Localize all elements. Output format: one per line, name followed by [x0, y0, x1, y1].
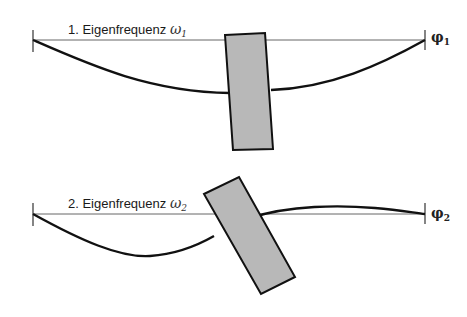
mode-2-label: 2. Eigenfrequenz ω2	[68, 195, 187, 213]
mode-2-title: 2. Eigenfrequenz	[68, 196, 166, 211]
phi-2-label: φ2	[431, 205, 450, 223]
mode-2-deflection-curve-right	[250, 206, 425, 218]
mode-1-label: 1. Eigenfrequenz ω1	[68, 21, 187, 39]
mode-1-group	[33, 30, 425, 150]
mode-2-deflection-curve-left	[33, 214, 214, 256]
eigenmode-diagram	[0, 0, 467, 317]
mode-1-mass-block	[225, 33, 273, 150]
mode-1-deflection-curve-right	[271, 40, 425, 90]
mode-1-title: 1. Eigenfrequenz	[68, 22, 166, 37]
phi-1-label: φ1	[431, 29, 450, 47]
mode-2-mass-block	[204, 177, 295, 294]
omega-1-symbol: ω1	[170, 21, 187, 37]
mode-1-deflection-curve-left	[33, 40, 230, 93]
omega-2-symbol: ω2	[170, 195, 187, 211]
